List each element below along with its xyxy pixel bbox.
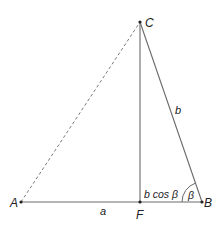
label-side-b: b xyxy=(175,104,181,116)
segment-cb xyxy=(140,22,202,202)
segment-ac-dashed xyxy=(21,22,140,202)
label-side-a: a xyxy=(100,205,106,217)
triangle-diagram: C A B F a b b cos β β xyxy=(0,0,221,228)
point-f xyxy=(138,200,141,203)
label-point-a: A xyxy=(9,196,18,210)
label-point-b: B xyxy=(204,196,212,210)
label-point-f: F xyxy=(136,208,144,222)
label-point-c: C xyxy=(145,16,154,30)
point-a xyxy=(19,200,22,203)
label-angle-beta: β xyxy=(187,189,194,201)
label-projection: b cos β xyxy=(144,188,178,200)
point-c xyxy=(138,20,141,23)
